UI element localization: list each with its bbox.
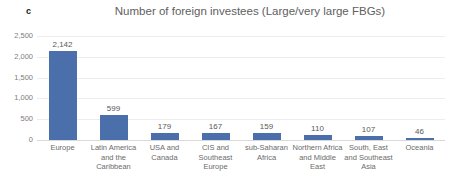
bar-group[interactable]: 2,142 [37,36,88,140]
bar[interactable] [355,136,383,140]
y-axis-tick-label: 500 [0,115,33,123]
bar[interactable] [406,138,434,140]
bar[interactable] [304,135,332,140]
bar-group[interactable]: 179 [139,36,190,140]
bar-value-label: 167 [190,122,241,131]
bar-group[interactable]: 599 [88,36,139,140]
x-axis-tick-label: CIS and Southeast Europe [190,143,241,172]
x-axis-tick-label: Northern Africa and Middle East [292,143,343,172]
x-axis: EuropeLatin America and the CaribbeanUSA… [37,143,445,183]
bar[interactable] [49,51,77,140]
bar-group[interactable]: 46 [394,36,445,140]
bar-group[interactable]: 107 [343,36,394,140]
panel-letter: c [26,6,31,17]
y-axis: 05001,0001,5002,0002,500 [0,36,33,140]
bar-value-label: 110 [292,124,343,133]
bar[interactable] [202,133,230,140]
y-axis-tick-label: 2,500 [0,32,33,40]
bar-series: 2,14259917916715911010746 [37,36,445,140]
bar[interactable] [253,133,281,140]
x-axis-tick-label: Latin America and the Caribbean [88,143,139,172]
bar-value-label: 179 [139,122,190,131]
bar-group[interactable]: 159 [241,36,292,140]
bar[interactable] [151,133,179,140]
bar-value-label: 159 [241,122,292,131]
bar-group[interactable]: 167 [190,36,241,140]
y-axis-tick-label: 1,500 [0,74,33,82]
gridline [37,140,445,141]
x-axis-tick-label: Oceania [394,143,445,153]
x-axis-tick-label: Europe [37,143,88,153]
x-axis-tick-label: USA and Canada [139,143,190,162]
bar-value-label: 46 [394,127,445,136]
chart-figure: c Number of foreign investees (Large/ver… [0,0,450,185]
y-axis-tick-label: 1,000 [0,94,33,102]
x-axis-tick-label: South, East and Southeast Asia [343,143,394,172]
y-axis-tick-label: 0 [0,136,33,144]
bar-group[interactable]: 110 [292,36,343,140]
bar-value-label: 2,142 [37,40,88,49]
y-axis-tick-label: 2,000 [0,53,33,61]
x-axis-tick-label: sub-Saharan Africa [241,143,292,162]
bar-value-label: 107 [343,125,394,134]
bar[interactable] [100,115,128,140]
chart-title: Number of foreign investees (Large/very … [55,4,445,19]
bar-value-label: 599 [88,104,139,113]
